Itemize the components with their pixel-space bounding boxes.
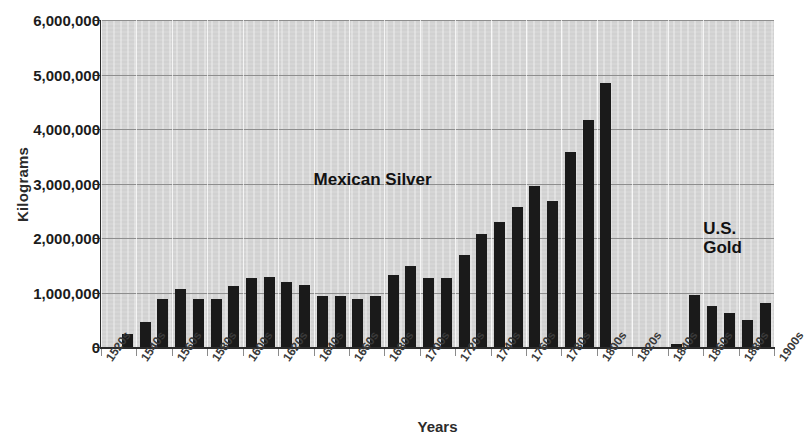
chart-annotation: Mexican Silver — [314, 170, 432, 190]
y-axis-tick-label: 2,000,000 — [8, 230, 100, 247]
bar — [246, 278, 257, 347]
vertical-gridline — [243, 20, 244, 347]
y-axis-tick-label: 1,000,000 — [8, 284, 100, 301]
vertical-gridline — [526, 20, 527, 347]
x-axis-tick-mark — [349, 349, 350, 356]
x-axis-tick-mark — [597, 349, 598, 356]
bar — [583, 120, 594, 347]
gridline — [101, 184, 774, 185]
x-axis-title: Years — [101, 418, 774, 435]
chart-annotation: U.S. Gold — [703, 219, 742, 258]
vertical-gridline — [101, 20, 102, 347]
y-axis-tick-mark — [93, 293, 100, 294]
vertical-gridline — [278, 20, 279, 347]
x-axis-tick-mark — [703, 349, 704, 356]
x-axis-tick-mark — [172, 349, 173, 356]
x-axis-tick-mark — [668, 349, 669, 356]
gridline — [101, 293, 774, 294]
bar — [388, 275, 399, 347]
plot-area: Mexican SilverU.S. Gold — [101, 20, 774, 347]
bar — [512, 207, 523, 347]
vertical-gridline — [739, 20, 740, 347]
y-axis-line — [100, 20, 101, 348]
gridline — [101, 238, 774, 239]
y-axis-tick-label: 6,000,000 — [8, 12, 100, 29]
bar — [529, 186, 540, 347]
vertical-gridline — [703, 20, 704, 347]
y-axis-tick-label: 3,000,000 — [8, 175, 100, 192]
y-axis-tick-mark — [93, 184, 100, 185]
vertical-gridline — [491, 20, 492, 347]
x-axis-tick-mark — [101, 349, 102, 356]
vertical-gridline — [455, 20, 456, 347]
vertical-gridline — [632, 20, 633, 347]
x-axis-tick-mark — [314, 349, 315, 356]
bar — [565, 152, 576, 347]
bar — [175, 289, 186, 347]
vertical-gridline — [136, 20, 137, 347]
y-axis-tick-mark — [93, 129, 100, 130]
x-axis-tick-mark — [278, 349, 279, 356]
bar — [547, 201, 558, 347]
y-axis-tick-label: 0 — [8, 339, 100, 356]
y-axis-tick-mark — [93, 238, 100, 239]
y-axis-tick-mark — [93, 347, 100, 348]
x-axis-tick-mark — [774, 349, 775, 356]
vertical-gridline — [668, 20, 669, 347]
gridline — [101, 20, 774, 21]
x-axis-tick-mark — [739, 349, 740, 356]
vertical-gridline — [207, 20, 208, 347]
x-axis-tick-mark — [243, 349, 244, 356]
bar — [600, 83, 611, 347]
x-axis-tick-mark — [526, 349, 527, 356]
y-axis-tick-mark — [93, 75, 100, 76]
y-axis-tick-label: 5,000,000 — [8, 66, 100, 83]
bar — [423, 278, 434, 347]
y-axis-tick-mark — [93, 20, 100, 21]
x-axis-tick-mark — [491, 349, 492, 356]
bar — [459, 255, 470, 347]
bar — [494, 222, 505, 347]
bar — [281, 282, 292, 347]
vertical-gridline — [172, 20, 173, 347]
vertical-gridline — [597, 20, 598, 347]
y-axis-tick-group: 01,000,0002,000,0003,000,0004,000,0005,0… — [0, 0, 100, 444]
gridline — [101, 129, 774, 130]
y-axis-tick-label: 4,000,000 — [8, 121, 100, 138]
gridline — [101, 75, 774, 76]
vertical-gridline — [561, 20, 562, 347]
x-axis-tick-mark — [420, 349, 421, 356]
x-axis-tick-label: 1900s — [776, 329, 807, 364]
